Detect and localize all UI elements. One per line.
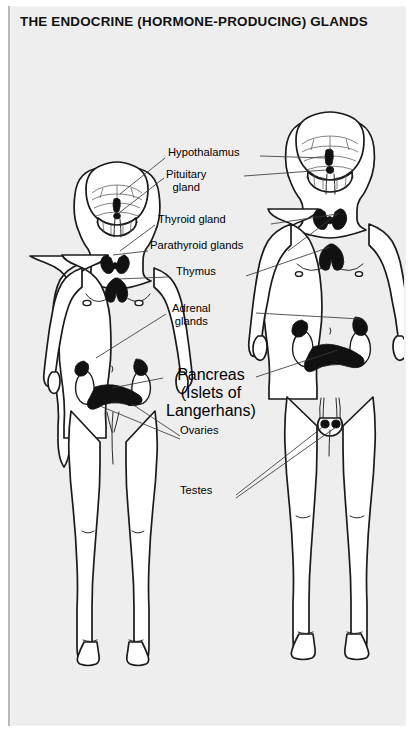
- label-adrenal-glands: Adrenal glands: [172, 302, 211, 327]
- diagram-page: THE ENDOCRINE (HORMONE-PRODUCING) GLANDS…: [0, 0, 413, 735]
- label-adrenal-line2: glands: [175, 315, 208, 327]
- label-pancreas-line2: (Islets of: [181, 384, 241, 401]
- gland-pituitary-female: [114, 213, 121, 219]
- label-pancreas-line1: Pancreas: [177, 366, 245, 383]
- gland-pituitary-male: [326, 167, 334, 174]
- gland-hypothalamus-female: [113, 198, 120, 212]
- label-pancreas-line3: Langerhans): [166, 402, 256, 419]
- label-parathyroid-glands: Parathyroid glands: [150, 239, 243, 252]
- gland-testes-male: [318, 398, 343, 456]
- label-testes: Testes: [180, 484, 212, 497]
- label-pituitary-line2: gland: [173, 181, 200, 193]
- label-hypothalamus: Hypothalamus: [168, 146, 240, 159]
- gland-hypothalamus-male: [325, 149, 333, 165]
- label-pituitary-gland: Pituitary gland: [166, 168, 206, 193]
- gland-adrenal-right-male: [353, 317, 368, 336]
- male-figure: [249, 112, 404, 660]
- label-pituitary-line1: Pituitary: [166, 168, 206, 180]
- label-ovaries: Ovaries: [180, 424, 219, 437]
- gland-adrenal-right-female: [134, 359, 148, 376]
- label-thymus: Thymus: [176, 265, 216, 278]
- label-pancreas: Pancreas (Islets of Langerhans): [166, 366, 256, 420]
- label-adrenal-line1: Adrenal: [172, 302, 211, 314]
- label-thyroid-gland: Thyroid gland: [158, 213, 226, 226]
- gland-thymus-male: [319, 244, 344, 270]
